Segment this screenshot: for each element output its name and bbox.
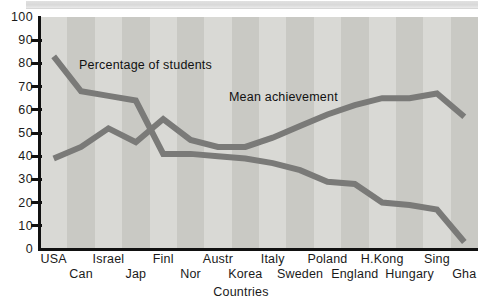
x-axis-title: Countries (0, 285, 482, 299)
x-axis-line (38, 248, 478, 251)
series-label-mean-achievement: Mean achievement (229, 90, 338, 104)
x-axis-tick-label-england: England (331, 267, 378, 281)
y-axis-tick-label: 70 (3, 81, 33, 93)
y-axis-tick-label: 50 (3, 127, 33, 139)
x-axis-tick-label-finl: Finl (153, 252, 174, 266)
x-axis-tick-label-can: Can (69, 267, 93, 281)
x-axis-tick-label-nor: Nor (180, 267, 201, 281)
x-axis-tick-label-austr: Austr (203, 252, 233, 266)
x-axis-tick-label-korea: Korea (228, 267, 262, 281)
line-chart: 1009080706050403020100 USACanIsraelJapFi… (0, 0, 482, 307)
x-axis-tick-label-sweden: Sweden (277, 267, 323, 281)
chart-page: 1009080706050403020100 USACanIsraelJapFi… (0, 0, 482, 307)
y-axis-tick-label: 90 (3, 34, 33, 46)
x-axis-tick-label-israel: Israel (93, 252, 125, 266)
x-axis-tick-label-poland: Poland (307, 252, 347, 266)
x-axis-tick-label-italy: Italy (261, 252, 285, 266)
y-axis-tick-label: 100 (3, 11, 33, 23)
y-axis-tick-label: 60 (3, 104, 33, 116)
x-axis-tick-label-usa: USA (41, 252, 67, 266)
y-axis-tick-label: 10 (3, 220, 33, 232)
x-axis-tick-label-h-kong: H.Kong (361, 252, 404, 266)
series-lines (40, 17, 478, 249)
x-axis-tick-label-sing: Sing (424, 252, 450, 266)
y-axis-tick-label: 80 (3, 57, 33, 69)
y-axis-tick-label: 30 (3, 173, 33, 185)
x-axis-tick-label-hungary: Hungary (385, 267, 434, 281)
plot-area (40, 17, 478, 249)
series-label-percentage-of-students: Percentage of students (79, 58, 212, 72)
x-axis-tick-label-gha: Gha (452, 267, 476, 281)
series-line-percentage-of-students (54, 56, 465, 242)
y-axis-tick-label: 20 (3, 197, 33, 209)
y-axis-tick-label: 40 (3, 150, 33, 162)
x-axis-tick-label-jap: Jap (125, 267, 146, 281)
